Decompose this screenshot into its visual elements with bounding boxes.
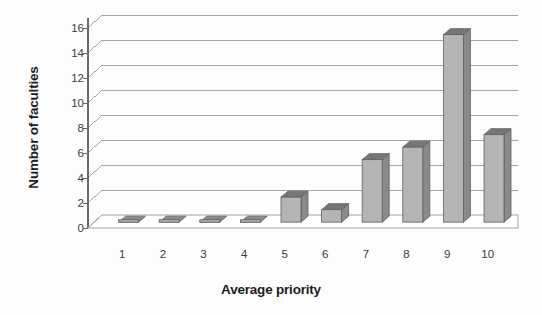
x-tick-label: 9 <box>427 248 467 260</box>
x-tick-label: 2 <box>143 248 183 260</box>
x-tick-label: 1 <box>102 248 142 260</box>
chart-figure: Number of faculties Average priority 024… <box>0 0 542 315</box>
x-tick-label: 8 <box>387 248 427 260</box>
bar <box>403 141 430 222</box>
bar <box>484 129 511 223</box>
bar <box>322 204 349 223</box>
plot-area <box>0 0 542 315</box>
x-tick-label: 10 <box>468 248 508 260</box>
x-tick-label: 3 <box>184 248 224 260</box>
axis-lines <box>83 18 88 228</box>
x-tick-label: 7 <box>346 248 386 260</box>
x-tick-label: 5 <box>265 248 305 260</box>
bar <box>443 29 470 223</box>
x-tick-label: 6 <box>305 248 345 260</box>
bar <box>281 191 308 222</box>
bar-series <box>119 29 511 223</box>
bar <box>362 154 389 223</box>
x-tick-label: 4 <box>224 248 264 260</box>
